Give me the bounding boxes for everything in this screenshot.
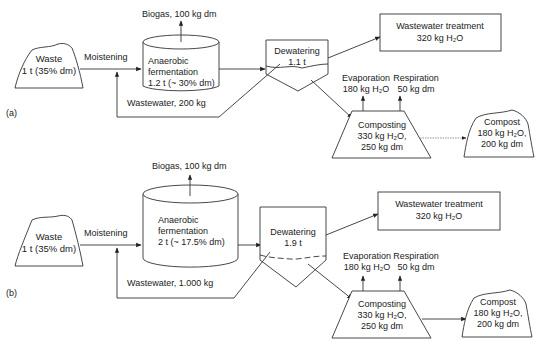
waste-amount-b: 1 t (35% dm) bbox=[22, 243, 76, 254]
moistening-label-a: Moistening bbox=[84, 52, 128, 62]
dewatering-to-treatment-arrow-a bbox=[328, 37, 380, 58]
wastewater-recycle-label-b: Wastewater, 1.000 kg bbox=[127, 278, 213, 288]
compost-line3-b: 200 kg dm bbox=[477, 319, 519, 329]
waste-title-b: Waste bbox=[36, 231, 63, 242]
respiration-title-a: Respiration bbox=[393, 73, 439, 83]
biogas-label-b: Biogas, 100 kg dm bbox=[152, 161, 227, 171]
respiration-amount-a: 50 kg dm bbox=[397, 84, 434, 94]
waste-amount-a: 1 t (35% dm) bbox=[22, 65, 76, 76]
panel-label-a: (a) bbox=[6, 108, 17, 118]
evaporation-amount-b: 180 kg H₂O bbox=[344, 262, 391, 272]
wastewater-treatment-title-a: Wastewater treatment bbox=[396, 21, 484, 31]
wastewater-recycle-label-a: Wastewater, 200 kg bbox=[127, 98, 206, 108]
composting-line2-a: 330 kg H₂O, bbox=[357, 131, 406, 141]
wastewater-treatment-amount-a: 320 kg H₂O bbox=[417, 33, 464, 43]
fermentation-line2-b: fermentation bbox=[158, 226, 208, 236]
fermentation-line3-b: 2 t (~ 17.5% dm) bbox=[158, 237, 225, 247]
wastewater-treatment-title-b: Wastewater treatment bbox=[395, 199, 483, 209]
compost-title-b: Compost bbox=[480, 297, 517, 307]
composting-title-a: Composting bbox=[358, 120, 406, 130]
process-flow-diagram: Waste 1 t (35% dm) Moistening Anaerobic … bbox=[0, 0, 545, 350]
composting-title-b: Composting bbox=[358, 299, 406, 309]
panel-label-b: (b) bbox=[6, 288, 17, 298]
evaporation-title-b: Evaporation bbox=[343, 251, 391, 261]
dewatering-title-a: Dewatering bbox=[274, 46, 320, 56]
composting-line3-b: 250 kg dm bbox=[361, 321, 403, 331]
composting-line2-b: 330 kg H₂O, bbox=[357, 310, 406, 320]
dewatering-to-treatment-arrow-b bbox=[326, 214, 378, 235]
biogas-label-a: Biogas, 100 kg dm bbox=[142, 9, 217, 19]
moistening-label-b: Moistening bbox=[84, 228, 128, 238]
panel-a: Waste 1 t (35% dm) Moistening Anaerobic … bbox=[6, 9, 534, 158]
composting-line3-a: 250 kg dm bbox=[361, 142, 403, 152]
fermentation-line1-a: Anaerobic bbox=[148, 56, 189, 66]
evaporation-title-a: Evaporation bbox=[342, 73, 390, 83]
compost-line3-a: 200 kg dm bbox=[481, 139, 523, 149]
fermentation-line1-b: Anaerobic bbox=[158, 215, 199, 225]
wastewater-treatment-amount-b: 320 kg H₂O bbox=[416, 211, 463, 221]
respiration-amount-b: 50 kg dm bbox=[397, 262, 434, 272]
waste-title-a: Waste bbox=[36, 53, 63, 64]
dewatering-amount-b: 1.9 t bbox=[284, 238, 302, 248]
dewatering-title-b: Dewatering bbox=[270, 227, 316, 237]
compost-title-a: Compost bbox=[484, 117, 521, 127]
respiration-title-b: Respiration bbox=[393, 251, 439, 261]
fermentation-line2-a: fermentation bbox=[148, 67, 198, 77]
compost-line2-a: 180 kg H₂O, bbox=[477, 128, 526, 138]
evaporation-amount-a: 180 kg H₂O bbox=[343, 84, 390, 94]
panel-b: Waste 1 t (35% dm) Moistening Anaerobic … bbox=[6, 161, 532, 338]
compost-line2-b: 180 kg H₂O, bbox=[473, 308, 522, 318]
dewatering-amount-a: 1.1 t bbox=[288, 57, 306, 67]
fermentation-line3-a: 1.2 t (~ 30% dm) bbox=[148, 78, 215, 88]
